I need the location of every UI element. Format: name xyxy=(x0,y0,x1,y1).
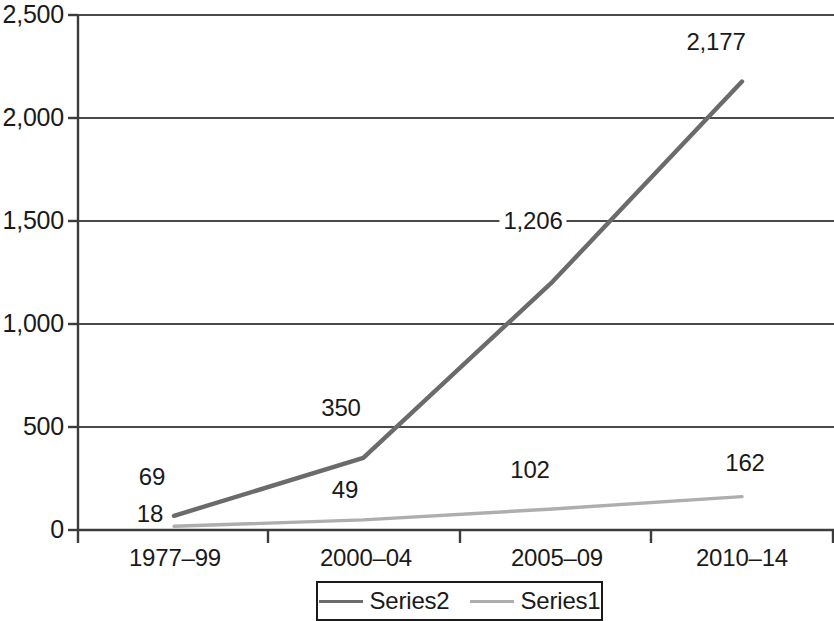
series-line-series1 xyxy=(174,497,742,527)
x-tick-label-1977-99: 1977–99 xyxy=(129,546,221,570)
legend-swatch-series1-icon xyxy=(470,600,514,603)
data-label-series1-2010-14: 162 xyxy=(721,451,768,475)
legend-entry-series1[interactable]: Series1 xyxy=(470,589,601,613)
legend-label-series2: Series2 xyxy=(370,589,450,613)
data-label-series2-1977-99: 69 xyxy=(135,465,169,489)
y-tick-label-500: 500 xyxy=(23,414,64,439)
y-tick-label-0: 0 xyxy=(50,517,64,542)
data-label-series2-2000-04: 350 xyxy=(317,396,364,420)
x-axis-ticks xyxy=(78,530,833,543)
data-label-series2-2010-14: 2,177 xyxy=(682,30,749,54)
x-tick-label-2005-09: 2005–09 xyxy=(511,546,603,570)
y-axis-ticks xyxy=(68,15,78,530)
y-tick-label-1000: 1,000 xyxy=(2,311,64,336)
data-label-series2-2005-09: 1,206 xyxy=(499,209,566,233)
legend-swatch-series2-icon xyxy=(319,600,363,603)
chart-legend: Series2 Series1 xyxy=(316,581,603,621)
data-label-series1-1977-99: 18 xyxy=(133,502,167,526)
legend-entry-series2[interactable]: Series2 xyxy=(319,589,450,613)
legend-label-series1: Series1 xyxy=(521,589,601,613)
y-tick-label-1500: 1,500 xyxy=(2,208,64,233)
y-tick-label-2500: 2,500 xyxy=(2,2,64,27)
x-tick-label-2000-04: 2000–04 xyxy=(320,546,412,570)
series-line-series2 xyxy=(174,82,742,516)
gridlines xyxy=(77,15,834,427)
y-tick-label-2000: 2,000 xyxy=(2,105,64,130)
data-label-series1-2005-09: 102 xyxy=(506,458,553,482)
x-tick-label-2010-14: 2010–14 xyxy=(696,546,788,570)
data-label-series1-2000-04: 49 xyxy=(328,478,362,502)
